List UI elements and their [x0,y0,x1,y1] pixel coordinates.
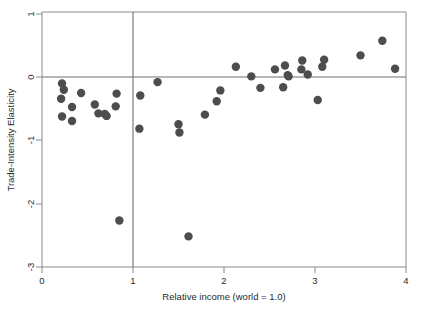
scatter-point [135,124,143,132]
y-tick-label-0: 0 [25,74,36,79]
x-tick-label-2: 2 [221,275,226,286]
x-tick-label-3: 3 [312,275,317,286]
scatter-point [314,96,322,104]
scatter-point [115,216,123,224]
scatter-point [175,128,183,136]
scatter-point [256,84,264,92]
scatter-point [57,95,65,103]
scatter-point [58,112,66,120]
scatter-plot-figure: 1 0 -1 -2 -3 0 1 2 3 4 Relative income (… [0,0,429,311]
x-tick-label-4: 4 [403,275,408,286]
y-tick-label-neg3: -3 [25,263,36,271]
scatter-point [284,72,292,80]
scatter-point [77,89,85,97]
scatter-point [112,89,120,97]
scatter-point [318,63,326,71]
scatter-point [320,56,328,64]
scatter-point [174,120,182,128]
scatter-point [153,78,161,86]
scatter-point [216,86,224,94]
scatter-point [304,70,312,78]
y-tick-label-1: 1 [25,11,36,16]
scatter-point [298,56,306,64]
y-tick-label-neg2: -2 [25,200,36,208]
scatter-point [356,51,364,59]
x-tick-label-1: 1 [130,275,135,286]
scatter-point [247,72,255,80]
scatter-point [232,63,240,71]
scatter-point [112,102,120,110]
scatter-point [136,91,144,99]
scatter-point [281,61,289,69]
plot-background [0,0,429,311]
y-tick-label-neg1: -1 [25,136,36,144]
scatter-point [68,103,76,111]
scatter-point [279,83,287,91]
y-axis-title: Trade-Intensity Elasticity [5,88,16,191]
scatter-point [201,110,209,118]
scatter-point [102,112,110,120]
scatter-point [60,86,68,94]
scatter-point [213,97,221,105]
scatter-point [184,232,192,240]
scatter-point [271,65,279,73]
scatter-point [68,117,76,125]
scatter-point [91,100,99,108]
x-tick-label-0: 0 [39,275,44,286]
scatter-point [391,65,399,73]
x-axis-title: Relative income (world = 1.0) [162,291,285,302]
scatter-point [378,36,386,44]
